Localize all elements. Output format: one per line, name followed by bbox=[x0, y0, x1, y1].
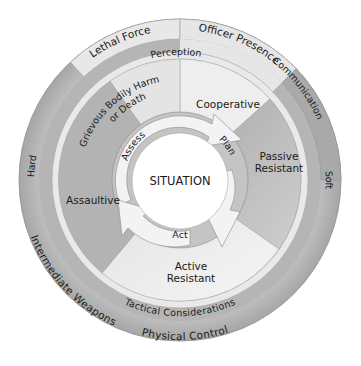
center-label: SITUATION bbox=[149, 174, 210, 188]
cycle-act-label: Act bbox=[172, 229, 188, 240]
sector-cooperative-label: Cooperative bbox=[196, 98, 260, 110]
sector-active-label-1: Active bbox=[175, 260, 207, 272]
sector-active-label-2: Resistant bbox=[167, 272, 215, 284]
use-of-force-diagram: SITUATION Assess Plan Act Cooperative Pa… bbox=[0, 0, 361, 366]
sector-passive-label-2: Resistant bbox=[255, 162, 303, 174]
sector-passive-label-1: Passive bbox=[260, 150, 299, 162]
hard-label: Hard bbox=[25, 154, 38, 177]
soft-label: Soft bbox=[323, 171, 334, 190]
sector-assaultive-label: Assaultive bbox=[66, 194, 120, 206]
